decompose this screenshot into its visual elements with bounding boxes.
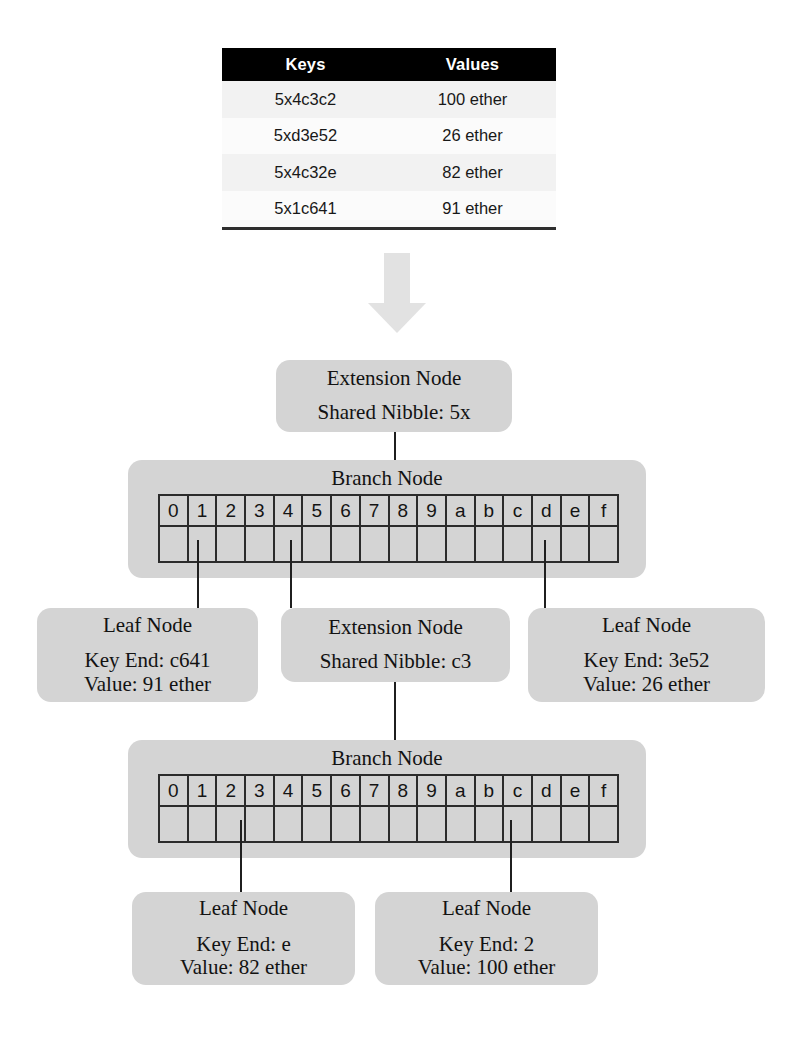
nibble-pointer-slot[interactable] [303,527,330,563]
nibble-pointer-slot[interactable] [303,807,330,843]
nibble-column-e[interactable]: e [562,776,591,843]
nibble-column-f[interactable]: f [590,496,619,563]
nibble-pointer-slot[interactable] [418,807,445,843]
node-title: Leaf Node [199,897,288,921]
nibble-column-e[interactable]: e [562,496,591,563]
nibble-column-5[interactable]: 5 [303,496,332,563]
nibble-pointer-slot[interactable] [189,807,216,843]
cell-value: 26 ether [389,118,556,155]
nibble-column-9[interactable]: 9 [418,776,447,843]
nibble-column-a[interactable]: a [447,776,476,843]
nibble-column-6[interactable]: 6 [332,776,361,843]
nibble-pointer-slot[interactable] [332,527,359,563]
nibble-label: c [504,776,531,807]
nibble-pointer-slot[interactable] [476,807,503,843]
nibble-label: 6 [332,496,359,527]
nibble-column-b[interactable]: b [476,496,505,563]
nibble-column-8[interactable]: 8 [390,776,419,843]
nibble-column-3[interactable]: 3 [246,496,275,563]
node-key-end: Key End: 2 [439,933,535,957]
node-title: Leaf Node [442,897,531,921]
nibble-label: 3 [246,776,273,807]
nibble-pointer-slot[interactable] [504,807,531,843]
nibble-column-7[interactable]: 7 [361,496,390,563]
nibble-column-7[interactable]: 7 [361,776,390,843]
leaf-node-3e52[interactable]: Leaf Node Key End: 3e52 Value: 26 ether [528,608,765,702]
root-extension-node[interactable]: Extension Node Shared Nibble: 5x [276,360,512,432]
node-detail: Shared Nibble: c3 [320,650,472,674]
nibble-column-1[interactable]: 1 [189,776,218,843]
nibble-column-b[interactable]: b [476,776,505,843]
leaf-node-2[interactable]: Leaf Node Key End: 2 Value: 100 ether [375,892,598,985]
cell-key: 5xd3e52 [222,118,389,155]
nibble-column-2[interactable]: 2 [217,496,246,563]
node-title: Leaf Node [103,614,192,638]
nibble-pointer-slot[interactable] [189,527,216,563]
node-key-end: Key End: e [196,933,290,957]
nibble-pointer-slot[interactable] [361,527,388,563]
nibble-pointer-slot[interactable] [390,807,417,843]
nibble-pointer-slot[interactable] [361,807,388,843]
nibble-pointer-slot[interactable] [160,527,187,563]
node-title: Branch Node [128,466,646,491]
nibble-column-3[interactable]: 3 [246,776,275,843]
nibble-column-6[interactable]: 6 [332,496,361,563]
nibble-pointer-slot[interactable] [562,807,589,843]
nibble-column-0[interactable]: 0 [160,496,189,563]
nibble-label: 1 [189,776,216,807]
nibble-column-0[interactable]: 0 [160,776,189,843]
nibble-pointer-slot[interactable] [418,527,445,563]
nibble-label: 7 [361,496,388,527]
nibble-pointer-slot[interactable] [533,527,560,563]
table-row: 5xd3e52 26 ether [222,118,556,155]
nibble-pointer-slot[interactable] [504,527,531,563]
nibble-pointer-slot[interactable] [562,527,589,563]
nibble-pointer-slot[interactable] [246,807,273,843]
node-value: Value: 91 ether [84,673,211,697]
node-value: Value: 100 ether [418,956,556,980]
branch-node-bottom[interactable]: Branch Node 0123456789abcdef [128,740,646,858]
nibble-column-f[interactable]: f [590,776,619,843]
nibble-pointer-slot[interactable] [160,807,187,843]
cell-value: 82 ether [389,154,556,191]
nibble-pointer-slot[interactable] [217,527,244,563]
nibble-pointer-slot[interactable] [275,527,302,563]
nibble-column-5[interactable]: 5 [303,776,332,843]
nibble-pointer-slot[interactable] [590,807,617,843]
cell-key: 5x1c641 [222,191,389,229]
nibble-label: 0 [160,776,187,807]
node-title: Branch Node [128,746,646,771]
nibble-pointer-slot[interactable] [275,807,302,843]
table-header-row: Keys Values [222,48,556,81]
nibble-column-c[interactable]: c [504,496,533,563]
leaf-node-c641[interactable]: Leaf Node Key End: c641 Value: 91 ether [37,608,258,702]
nibble-column-4[interactable]: 4 [275,776,304,843]
nibble-pointer-slot[interactable] [447,807,474,843]
nibble-label: d [533,776,560,807]
nibble-pointer-slot[interactable] [246,527,273,563]
nibble-label: b [476,496,503,527]
nibble-pointer-slot[interactable] [447,527,474,563]
nibble-column-9[interactable]: 9 [418,496,447,563]
nibble-pointer-slot[interactable] [533,807,560,843]
arrow-head [368,303,426,333]
connector-branch-bottom-cell-c [510,820,512,892]
nibble-column-1[interactable]: 1 [189,496,218,563]
node-title: Leaf Node [602,614,691,638]
nibble-column-d[interactable]: d [533,776,562,843]
leaf-node-e[interactable]: Leaf Node Key End: e Value: 82 ether [132,892,355,985]
branch-node-top[interactable]: Branch Node 0123456789abcdef [128,460,646,578]
nibble-column-d[interactable]: d [533,496,562,563]
cell-value: 91 ether [389,191,556,229]
nibble-column-a[interactable]: a [447,496,476,563]
nibble-column-c[interactable]: c [504,776,533,843]
nibble-pointer-slot[interactable] [590,527,617,563]
connector-branch-top-cell-1 [197,540,199,608]
nibble-column-8[interactable]: 8 [390,496,419,563]
nibble-label: 9 [418,776,445,807]
extension-node-c3[interactable]: Extension Node Shared Nibble: c3 [281,608,510,682]
connector-branch-top-cell-4 [290,540,292,608]
nibble-pointer-slot[interactable] [390,527,417,563]
nibble-pointer-slot[interactable] [476,527,503,563]
nibble-pointer-slot[interactable] [332,807,359,843]
